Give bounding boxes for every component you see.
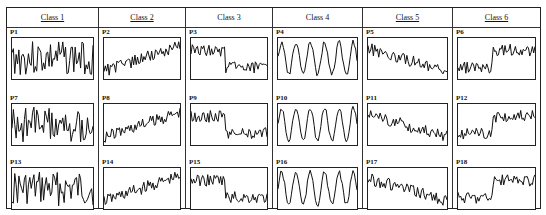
class-heading: Class 1 [7,8,98,27]
time-series-line [278,168,357,209]
panel-label: P11 [366,94,377,102]
time-series-line [104,104,180,145]
panel-label: P13 [10,158,21,166]
panel-label: P10 [276,94,287,102]
time-series-plot [457,103,536,146]
panel-label: P12 [456,94,467,102]
time-series-plot [190,103,268,146]
time-series-line [12,104,93,145]
time-series-plot [190,167,268,210]
class-column-1: Class 1P1P7P13 [7,8,98,208]
time-series-plot [11,167,94,210]
time-series-line [278,38,357,79]
time-series-plot [277,103,358,146]
class-heading: Class 5 [363,8,452,27]
class-heading: Class 4 [273,8,362,27]
class-heading-label: Class 5 [396,13,419,22]
class-heading-label: Class 2 [130,13,153,22]
panel-label: P6 [456,28,464,36]
panel-label: P7 [10,94,18,102]
panel-label: P8 [102,94,110,102]
panel-label: P4 [276,28,284,36]
class-column-6: Class 6P6P12P18 [452,8,540,208]
class-heading-label: Class 3 [217,13,240,22]
time-series-line [368,38,447,79]
time-series-plot [103,167,181,210]
time-series-plot [457,167,536,210]
panel-label: P16 [276,158,287,166]
time-series-plot [11,37,94,80]
class-heading: Class 2 [99,8,185,27]
time-series-line [12,168,93,209]
class-heading-label: Class 6 [485,13,508,22]
time-series-plot [190,37,268,80]
class-heading-label: Class 4 [306,13,329,22]
time-series-plot [11,103,94,146]
time-series-line [191,168,267,209]
panel-label: P9 [189,94,197,102]
class-column-2: Class 2P2P8P14 [98,8,185,208]
panel-label: P2 [102,28,110,36]
time-series-line [458,38,535,79]
time-series-line [12,38,93,79]
time-series-line [368,104,447,145]
time-series-line [368,168,447,209]
time-series-plot [103,37,181,80]
time-series-plot [457,37,536,80]
panel-label: P15 [189,158,200,166]
time-series-line [278,104,357,145]
time-series-line [104,168,180,209]
time-series-plot [367,103,448,146]
time-series-line [458,168,535,209]
control-chart-pattern-table: Class 1P1P7P13Class 2P2P8P14Class 3P3P9P… [6,7,541,209]
time-series-line [191,38,267,79]
time-series-plot [277,167,358,210]
time-series-plot [367,167,448,210]
panel-label: P17 [366,158,377,166]
time-series-plot [103,103,181,146]
class-heading: Class 6 [453,8,540,27]
time-series-plot [367,37,448,80]
class-column-3: Class 3P3P9P15 [185,8,272,208]
time-series-plot [277,37,358,80]
panel-label: P1 [10,28,18,36]
panel-label: P18 [456,158,467,166]
time-series-line [104,38,180,79]
panel-label: P5 [366,28,374,36]
panel-label: P14 [102,158,113,166]
panel-label: P3 [189,28,197,36]
class-column-4: Class 4P4P10P16 [272,8,362,208]
class-column-5: Class 5P5P11P17 [362,8,452,208]
time-series-line [191,104,267,145]
time-series-line [458,104,535,145]
class-heading-label: Class 1 [41,13,64,22]
class-heading: Class 3 [186,8,272,27]
